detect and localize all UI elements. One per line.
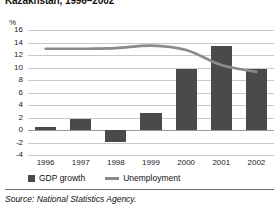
legend-label-gdp-growth: GDP growth xyxy=(39,173,85,183)
gridline--2 xyxy=(28,143,274,144)
bar-2000 xyxy=(176,69,197,130)
gridline-14 xyxy=(28,43,274,44)
x-tick-label-1996: 1996 xyxy=(37,158,55,167)
line-swatch-icon xyxy=(105,177,119,180)
source-note: Source: National Statistics Agency. xyxy=(5,194,136,204)
y-tick-label-4: 4 xyxy=(19,101,23,109)
y-tick-label-12: 12 xyxy=(14,51,23,59)
y-tick-label--2: -2 xyxy=(16,139,23,147)
y-tick-label-14: 14 xyxy=(14,39,23,47)
x-tick-label-1997: 1997 xyxy=(72,158,90,167)
bar-1997 xyxy=(70,119,91,130)
legend-item-unemployment: Unemployment xyxy=(105,173,180,183)
gridline-6 xyxy=(28,93,274,94)
bar-2001 xyxy=(211,46,232,130)
y-tick-label-6: 6 xyxy=(19,89,23,97)
legend-item-gdp-growth: GDP growth xyxy=(28,173,85,183)
gridline-12 xyxy=(28,55,274,56)
gridline--4 xyxy=(28,155,274,156)
y-axis: 1614121086420-2-4 xyxy=(0,30,26,155)
bar-swatch-icon xyxy=(28,175,35,182)
plot-area xyxy=(28,30,274,155)
y-tick-label-16: 16 xyxy=(14,26,23,34)
y-tick-label-8: 8 xyxy=(19,76,23,84)
gridline-0 xyxy=(28,130,274,131)
x-tick-label-2001: 2001 xyxy=(212,158,230,167)
bar-2002 xyxy=(246,69,267,130)
gridline-16 xyxy=(28,30,274,31)
x-tick-label-1999: 1999 xyxy=(142,158,160,167)
x-tick-label-1998: 1998 xyxy=(107,158,125,167)
y-tick-label-0: 0 xyxy=(19,126,23,134)
page-title: Kazakhstan, 1996–2002 xyxy=(5,0,114,6)
y-tick-label--4: -4 xyxy=(16,151,23,159)
gridline-10 xyxy=(28,68,274,69)
x-tick-label-2002: 2002 xyxy=(248,158,266,167)
chart-legend: GDP growth Unemployment xyxy=(28,172,180,184)
bar-1996 xyxy=(35,127,56,130)
x-axis: 1996199719981999200020012002 xyxy=(28,158,274,170)
bar-1998 xyxy=(105,130,126,142)
gridline-8 xyxy=(28,80,274,81)
gridline-4 xyxy=(28,105,274,106)
bar-1999 xyxy=(140,113,161,130)
y-tick-label-2: 2 xyxy=(19,114,23,122)
footer-divider xyxy=(5,189,274,190)
y-tick-label-10: 10 xyxy=(14,64,23,72)
x-tick-label-2000: 2000 xyxy=(177,158,195,167)
legend-label-unemployment: Unemployment xyxy=(123,173,180,183)
